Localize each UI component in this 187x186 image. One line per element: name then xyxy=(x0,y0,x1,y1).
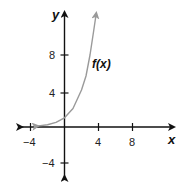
y-tick-label-4: 4 xyxy=(49,87,55,99)
x-tick-label-4: 4 xyxy=(95,136,101,148)
function-graph: −4 4 8 8 4 −4 x y f(x) xyxy=(0,0,187,186)
y-tick-label-8: 8 xyxy=(49,49,55,61)
x-tick-label-neg4: −4 xyxy=(23,136,36,148)
y-tick-label-neg4: −4 xyxy=(42,157,55,169)
function-label: f(x) xyxy=(92,57,111,71)
function-curve xyxy=(36,15,96,126)
x-tick-label-8: 8 xyxy=(129,136,135,148)
x-axis-label: x xyxy=(167,132,176,147)
y-axis-label: y xyxy=(51,7,60,22)
